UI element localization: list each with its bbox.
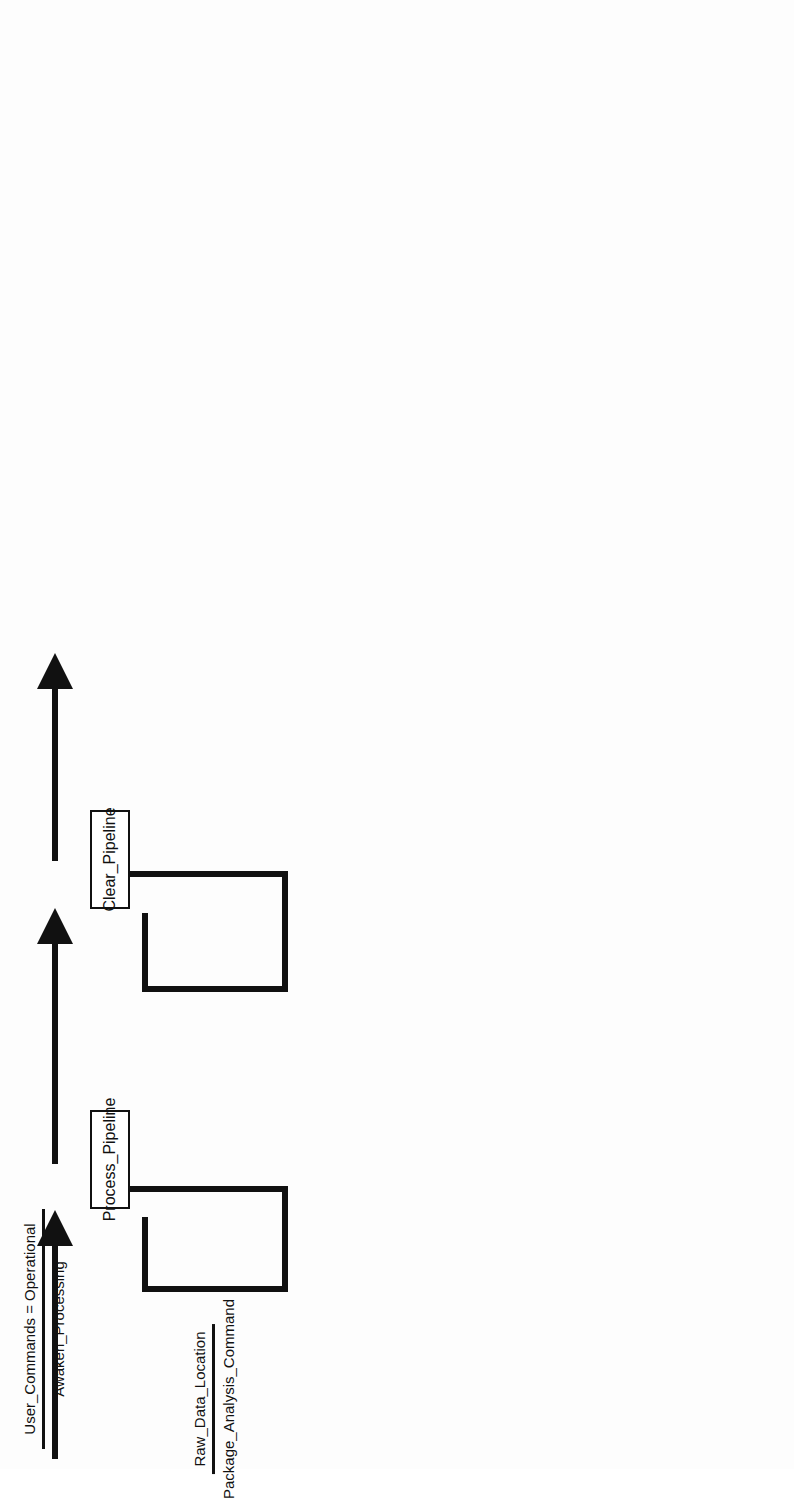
process-loop-top bbox=[125, 1189, 285, 1289]
clear-loop-top bbox=[125, 874, 285, 989]
transition-awaken: User_Commands = Operational Awaken_Proce… bbox=[20, 1209, 68, 1449]
clear-pipeline-box[interactable]: Clear_Pipeline bbox=[90, 810, 130, 909]
transition-raw-process: Raw_Data_Location Package_Analysis_Comma… bbox=[190, 1299, 238, 1499]
process-pipeline-box[interactable]: Process_Pipeline bbox=[90, 1110, 130, 1209]
